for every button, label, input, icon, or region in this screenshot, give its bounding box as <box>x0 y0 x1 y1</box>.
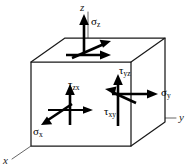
stress-element-figure: z y x σz τzx σx τyz τxy σy <box>0 0 192 167</box>
stress-label-sigma-x: σx <box>33 126 43 137</box>
stress-label-sigma-z: σz <box>91 16 100 27</box>
stress-label-tau-zx: τzx <box>68 79 80 90</box>
stress-label-tau-xy: τxy <box>104 106 116 117</box>
cube-front-face <box>31 62 131 146</box>
stress-label-tau-yz: τyz <box>119 65 131 76</box>
stress-label-sigma-y: σy <box>161 87 171 98</box>
x-axis-line <box>12 146 31 159</box>
axis-label-z: z <box>80 2 84 13</box>
axis-label-y: y <box>179 112 184 123</box>
axis-label-x: x <box>3 155 8 166</box>
